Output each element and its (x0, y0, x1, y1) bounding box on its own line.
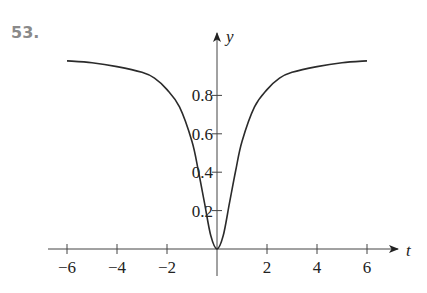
x-tick-label: 4 (313, 258, 322, 277)
y-axis-label: y (224, 27, 234, 46)
x-tick-label: −6 (58, 258, 76, 277)
x-tick-label: 2 (263, 258, 272, 277)
y-tick-label: 0.2 (192, 202, 213, 221)
x-axis-label: t (406, 241, 412, 260)
x-tick-label: −4 (108, 258, 127, 277)
axes (48, 33, 398, 276)
chart: −6−4−2246 0.20.40.60.8 t y (0, 0, 427, 293)
x-tick-label: 6 (363, 258, 372, 277)
y-tick-label: 0.6 (192, 125, 213, 144)
y-tick-label: 0.8 (192, 86, 213, 105)
x-tick-label: −2 (158, 258, 176, 277)
y-tick-label: 0.4 (192, 163, 214, 182)
